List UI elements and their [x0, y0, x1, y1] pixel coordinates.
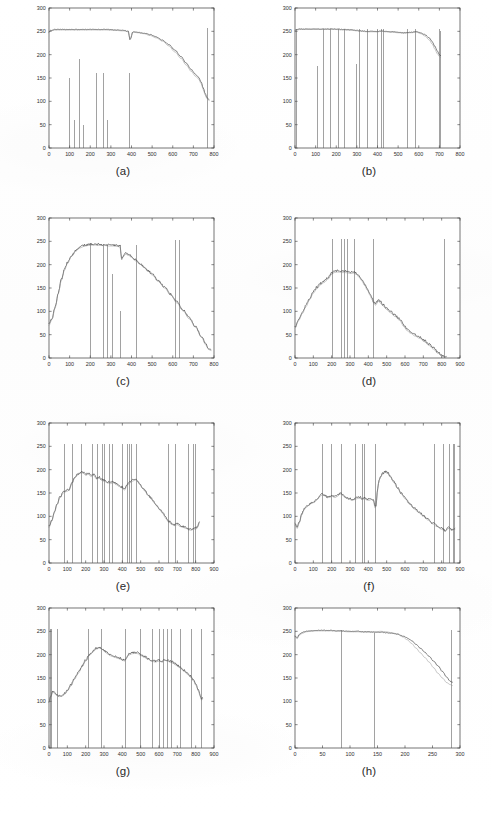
y-tick-label: 300: [283, 5, 292, 11]
x-tick-label: 0: [294, 151, 297, 157]
y-tick-label: 100: [37, 513, 46, 519]
x-tick-label: 600: [168, 151, 177, 157]
x-tick-label: 700: [173, 566, 182, 572]
x-tick-label: 100: [311, 151, 320, 157]
x-tick-label: 400: [118, 566, 127, 572]
x-tick-label: 700: [173, 751, 182, 757]
x-tick-label: 0: [48, 566, 51, 572]
x-tick-label: 100: [63, 751, 72, 757]
panel-h: 050100150200250300050100150200250300(h): [246, 600, 492, 815]
y-tick-label: 150: [37, 490, 46, 496]
y-tick-label: 250: [37, 443, 46, 449]
x-tick-label: 800: [191, 566, 200, 572]
y-tick-label: 100: [283, 698, 292, 704]
x-tick-label: 800: [210, 151, 219, 157]
y-tick-label: 150: [283, 675, 292, 681]
y-tick-label: 150: [283, 75, 292, 81]
x-tick-label: 900: [210, 751, 219, 757]
plot-d: 0100200300400500600700800900050100150200…: [269, 210, 469, 372]
panel-c: 0100200300400500600700800050100150200250…: [0, 210, 246, 415]
x-tick-label: 500: [136, 751, 145, 757]
y-tick-label: 0: [43, 745, 46, 751]
y-tick-label: 100: [37, 98, 46, 104]
y-tick-label: 150: [283, 490, 292, 496]
panel-a: 0100200300400500600700800050100150200250…: [0, 0, 246, 210]
x-tick-label: 400: [127, 361, 136, 367]
x-tick-label: 600: [401, 566, 410, 572]
panel-caption-f: (f): [363, 580, 374, 592]
y-tick-label: 250: [283, 28, 292, 34]
y-tick-label: 200: [283, 652, 292, 658]
x-tick-label: 500: [136, 566, 145, 572]
x-tick-label: 0: [48, 151, 51, 157]
y-tick-label: 300: [283, 420, 292, 426]
plot-frame: [295, 218, 460, 358]
x-tick-label: 400: [127, 151, 136, 157]
x-tick-label: 100: [309, 566, 318, 572]
y-tick-label: 0: [43, 355, 46, 361]
x-tick-label: 800: [437, 566, 446, 572]
y-tick-label: 50: [40, 722, 46, 728]
y-tick-label: 200: [37, 262, 46, 268]
x-tick-label: 300: [106, 361, 115, 367]
y-tick-label: 300: [37, 215, 46, 221]
panel-g: 0100200300400500600700800900050100150200…: [0, 600, 246, 815]
y-tick-label: 150: [37, 75, 46, 81]
x-tick-label: 900: [210, 566, 219, 572]
panel-f: 0100200300400500600700800900050100150200…: [246, 415, 492, 600]
x-tick-label: 100: [346, 751, 355, 757]
y-tick-label: 300: [37, 420, 46, 426]
y-tick-label: 50: [286, 537, 292, 543]
y-tick-label: 250: [283, 238, 292, 244]
y-tick-label: 200: [283, 467, 292, 473]
x-tick-label: 0: [48, 361, 51, 367]
y-tick-label: 200: [37, 652, 46, 658]
y-tick-label: 100: [283, 513, 292, 519]
plot-g: 0100200300400500600700800900050100150200…: [23, 600, 223, 762]
x-tick-label: 300: [346, 361, 355, 367]
plot-area-h: 050100150200250300050100150200250300: [269, 600, 469, 762]
x-tick-label: 700: [189, 151, 198, 157]
x-tick-label: 600: [155, 751, 164, 757]
panel-caption-g: (g): [116, 765, 131, 777]
x-tick-label: 700: [435, 151, 444, 157]
y-tick-label: 0: [43, 560, 46, 566]
x-tick-label: 300: [352, 151, 361, 157]
y-tick-label: 300: [37, 605, 46, 611]
plot-area-e: 0100200300400500600700800900050100150200…: [23, 415, 223, 577]
plot-b: 0100200300400500600700800050100150200250…: [269, 0, 469, 162]
plot-e: 0100200300400500600700800900050100150200…: [23, 415, 223, 577]
y-tick-label: 0: [289, 560, 292, 566]
plot-area-b: 0100200300400500600700800050100150200250…: [269, 0, 469, 162]
plot-frame: [49, 8, 214, 148]
x-tick-label: 500: [394, 151, 403, 157]
panel-caption-h: (h): [362, 765, 377, 777]
y-tick-label: 50: [40, 122, 46, 128]
y-tick-label: 300: [37, 5, 46, 11]
y-tick-label: 250: [37, 28, 46, 34]
x-tick-label: 100: [63, 566, 72, 572]
x-tick-label: 0: [48, 751, 51, 757]
y-tick-label: 300: [283, 215, 292, 221]
x-tick-label: 100: [309, 361, 318, 367]
figure-panel-grid: 0100200300400500600700800050100150200250…: [0, 0, 492, 815]
x-tick-label: 400: [373, 151, 382, 157]
y-tick-label: 50: [40, 537, 46, 543]
y-tick-label: 50: [286, 122, 292, 128]
x-tick-label: 100: [65, 361, 74, 367]
y-tick-label: 100: [283, 308, 292, 314]
x-tick-label: 200: [81, 751, 90, 757]
x-tick-label: 50: [320, 751, 326, 757]
x-tick-label: 150: [373, 751, 382, 757]
x-tick-label: 700: [419, 566, 428, 572]
plot-a: 0100200300400500600700800050100150200250…: [23, 0, 223, 162]
y-tick-label: 250: [37, 238, 46, 244]
x-tick-label: 0: [294, 751, 297, 757]
y-tick-label: 150: [37, 675, 46, 681]
plot-frame: [49, 218, 214, 358]
x-tick-label: 300: [456, 751, 465, 757]
x-tick-label: 600: [155, 566, 164, 572]
y-tick-label: 50: [40, 332, 46, 338]
y-tick-label: 250: [283, 628, 292, 634]
x-tick-label: 600: [414, 151, 423, 157]
